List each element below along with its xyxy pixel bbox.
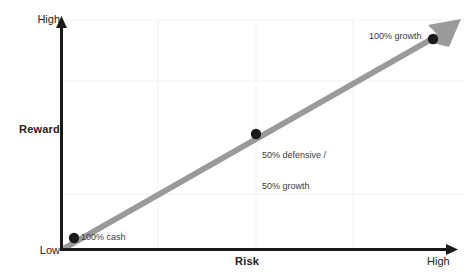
marker-100-cash bbox=[69, 233, 79, 243]
x-axis-high-label: High bbox=[427, 255, 450, 268]
chart-canvas: Reward High Low Risk High 100% cash 50% … bbox=[0, 0, 469, 279]
y-axis-title: Reward bbox=[19, 123, 60, 136]
annotation-50-50-line1: 50% defensive / bbox=[262, 150, 326, 160]
x-axis-arrowhead bbox=[446, 244, 458, 255]
annotation-100-growth: 100% growth bbox=[369, 31, 422, 41]
y-axis-high-label: High bbox=[37, 13, 60, 26]
annotation-50-50-line2: 50% growth bbox=[262, 181, 326, 191]
risk-reward-chart bbox=[0, 0, 469, 279]
trend-arrow-shaft bbox=[63, 36, 437, 249]
marker-50-50 bbox=[251, 129, 261, 139]
annotation-100-cash: 100% cash bbox=[81, 232, 126, 242]
annotation-50-50: 50% defensive / 50% growth bbox=[262, 129, 326, 212]
y-axis-low-label: Low bbox=[40, 244, 60, 257]
x-axis-title: Risk bbox=[235, 255, 259, 268]
marker-100-growth bbox=[428, 34, 438, 44]
